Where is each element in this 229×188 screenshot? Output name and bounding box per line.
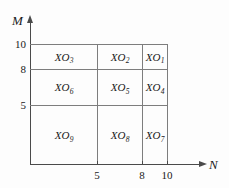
cell-label-subscript: 1 <box>161 56 165 65</box>
cell-label-subscript: 7 <box>161 135 165 144</box>
cell-label-subscript: 3 <box>70 56 74 65</box>
cell-label-xo6: XO6 <box>55 82 73 93</box>
cell-label-subscript: 5 <box>126 87 130 96</box>
cell-xo3: XO3 <box>31 45 97 69</box>
cell-label-subscript: 4 <box>161 87 165 96</box>
cell-label-xo2: XO2 <box>111 52 129 63</box>
cell-label-xo5: XO5 <box>111 82 129 93</box>
cell-xo2: XO2 <box>98 45 142 69</box>
cell-label-xo1: XO1 <box>146 52 164 63</box>
cell-label-xo7: XO7 <box>146 130 164 141</box>
cell-label-subscript: 8 <box>126 135 130 144</box>
cell-label-subscript: 9 <box>70 135 74 144</box>
cell-label-xo3: XO3 <box>55 52 73 63</box>
cell-xo4: XO4 <box>143 70 167 105</box>
cell-label-subscript: 6 <box>70 87 74 96</box>
cell-xo6: XO6 <box>31 70 97 105</box>
diagram-canvas: M N 10 8 5 5 8 10 XO3 XO2 XO1 XO6 XO5 <box>0 0 229 188</box>
cell-label-subscript: 2 <box>126 56 130 65</box>
cell-layer: XO3 XO2 XO1 XO6 XO5 XO4 XO9 XO8 XO7 <box>0 0 229 188</box>
cell-label-xo8: XO8 <box>111 130 129 141</box>
cell-xo8: XO8 <box>98 106 142 165</box>
cell-label-xo9: XO9 <box>55 130 73 141</box>
cell-label-xo4: XO4 <box>146 82 164 93</box>
cell-xo9: XO9 <box>31 106 97 165</box>
cell-xo5: XO5 <box>98 70 142 105</box>
cell-xo7: XO7 <box>143 106 167 165</box>
cell-xo1: XO1 <box>143 45 167 69</box>
